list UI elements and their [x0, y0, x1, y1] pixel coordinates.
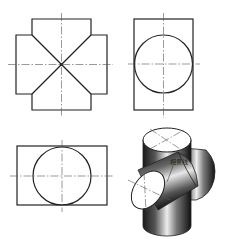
- front-view: [8, 13, 113, 116]
- annotation-label: 相贯线: [170, 158, 188, 166]
- isometric-view: 相贯线: [124, 128, 215, 236]
- side-view: [128, 13, 200, 118]
- top-view: [10, 140, 114, 212]
- orthographic-drawing: 相贯线: [0, 0, 227, 242]
